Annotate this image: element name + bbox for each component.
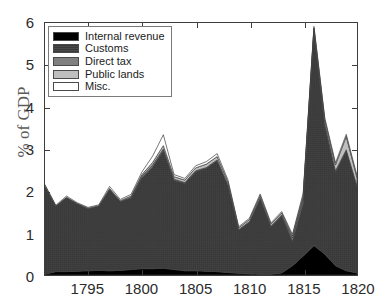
legend-label: Public lands xyxy=(85,69,144,80)
legend-swatch-icon xyxy=(53,32,79,41)
x-tick-mark xyxy=(88,270,89,275)
legend-item: Misc. xyxy=(53,80,165,93)
y-tick-label: 5 xyxy=(26,56,34,73)
y-tick-label: 0 xyxy=(26,268,34,285)
y-tick-label: 6 xyxy=(26,14,34,31)
y-tick-label: 4 xyxy=(26,98,34,115)
y-tick-label: 2 xyxy=(26,183,34,200)
x-tick-mark xyxy=(197,270,198,275)
legend-label: Customs xyxy=(85,43,128,54)
y-tick-mark xyxy=(352,108,357,109)
x-tick-label: 1800 xyxy=(125,280,158,297)
legend-swatch-icon xyxy=(53,82,79,91)
y-axis-tick-labels: 0123456 xyxy=(0,0,38,306)
x-tick-mark xyxy=(305,23,306,28)
legend-item: Direct tax xyxy=(53,55,165,68)
x-tick-label: 1810 xyxy=(233,280,266,297)
x-tick-label: 1815 xyxy=(287,280,320,297)
x-tick-label: 1795 xyxy=(71,280,104,297)
legend-label: Internal revenue xyxy=(85,31,165,42)
legend-item: Customs xyxy=(53,43,165,56)
x-tick-mark xyxy=(251,270,252,275)
y-tick-mark xyxy=(352,192,357,193)
legend-label: Direct tax xyxy=(85,56,131,67)
figure-stacked-area-chart: % of GDP 0123456 Internal revenueCustoms… xyxy=(0,0,390,306)
legend-item: Internal revenue xyxy=(53,30,165,43)
legend-swatch-icon xyxy=(53,57,79,66)
x-tick-label: 1820 xyxy=(341,280,374,297)
y-tick-mark xyxy=(352,65,357,66)
y-tick-mark xyxy=(45,235,50,236)
y-tick-mark xyxy=(352,150,357,151)
chart-legend: Internal revenueCustomsDirect taxPublic … xyxy=(48,26,172,97)
y-tick-mark xyxy=(45,192,50,193)
x-tick-mark xyxy=(305,270,306,275)
legend-swatch-icon xyxy=(53,44,79,53)
y-tick-mark xyxy=(45,108,50,109)
y-tick-label: 3 xyxy=(26,141,34,158)
x-tick-mark xyxy=(197,23,198,28)
legend-item: Public lands xyxy=(53,68,165,81)
x-tick-label: 1805 xyxy=(179,280,212,297)
y-tick-label: 1 xyxy=(26,225,34,242)
y-tick-mark xyxy=(45,150,50,151)
x-tick-mark xyxy=(251,23,252,28)
x-tick-mark xyxy=(142,270,143,275)
y-tick-mark xyxy=(352,235,357,236)
legend-label: Misc. xyxy=(85,81,111,92)
legend-swatch-icon xyxy=(53,70,79,79)
